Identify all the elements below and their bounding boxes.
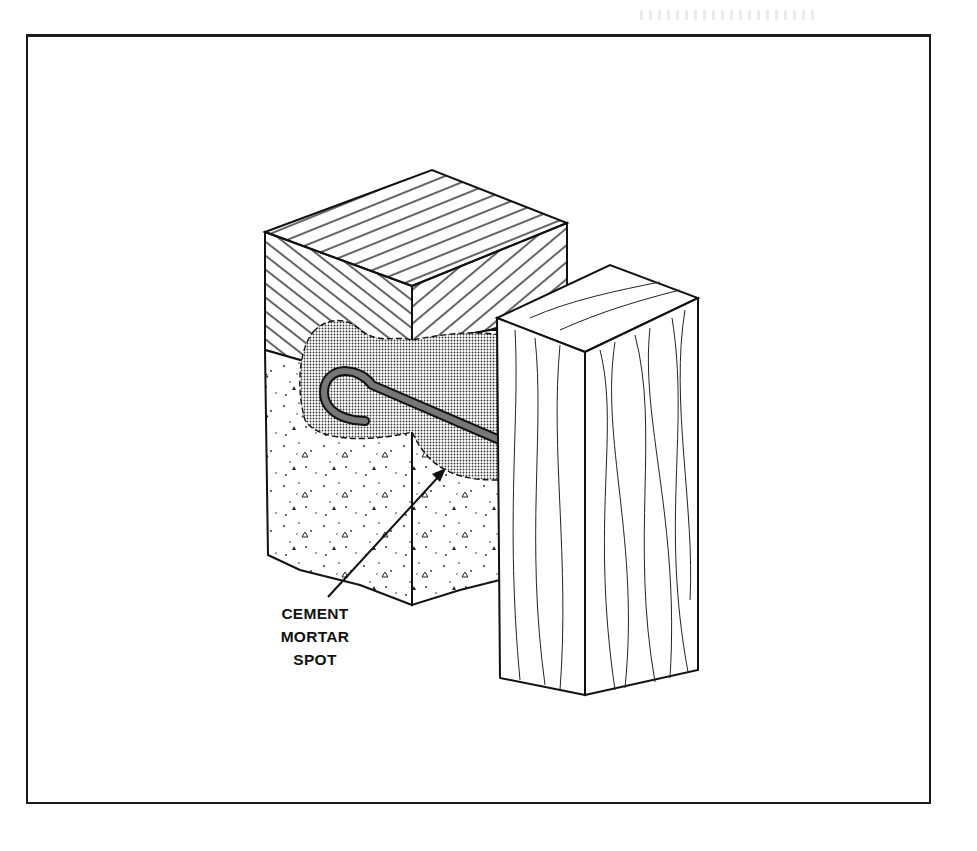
callout-label-line-3: SPOT: [260, 650, 370, 670]
anchor-bolt-illustration: [0, 0, 977, 851]
callout-label-line-2: MORTAR: [260, 627, 370, 647]
post-front-face: [497, 318, 585, 695]
callout-label-line-1: CEMENT: [260, 604, 370, 624]
